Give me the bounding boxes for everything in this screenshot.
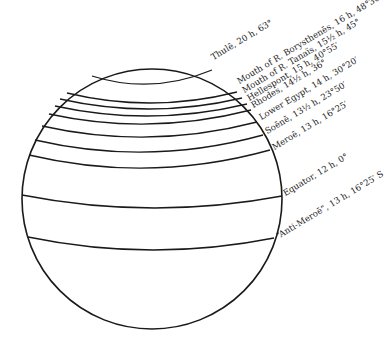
parallel-line — [92, 70, 212, 84]
globe-outline — [22, 69, 282, 329]
parallel-line — [49, 110, 251, 124]
parallel-line — [55, 104, 247, 116]
climata-globe-diagram: Thulē, 20 h, 63°Mouth of R. Borysthenēs,… — [0, 0, 392, 349]
parallel-line — [28, 237, 274, 250]
parallel-line — [22, 195, 282, 208]
parallel-line — [67, 92, 237, 103]
parallels-group — [22, 70, 282, 250]
parallel-line — [29, 150, 270, 168]
